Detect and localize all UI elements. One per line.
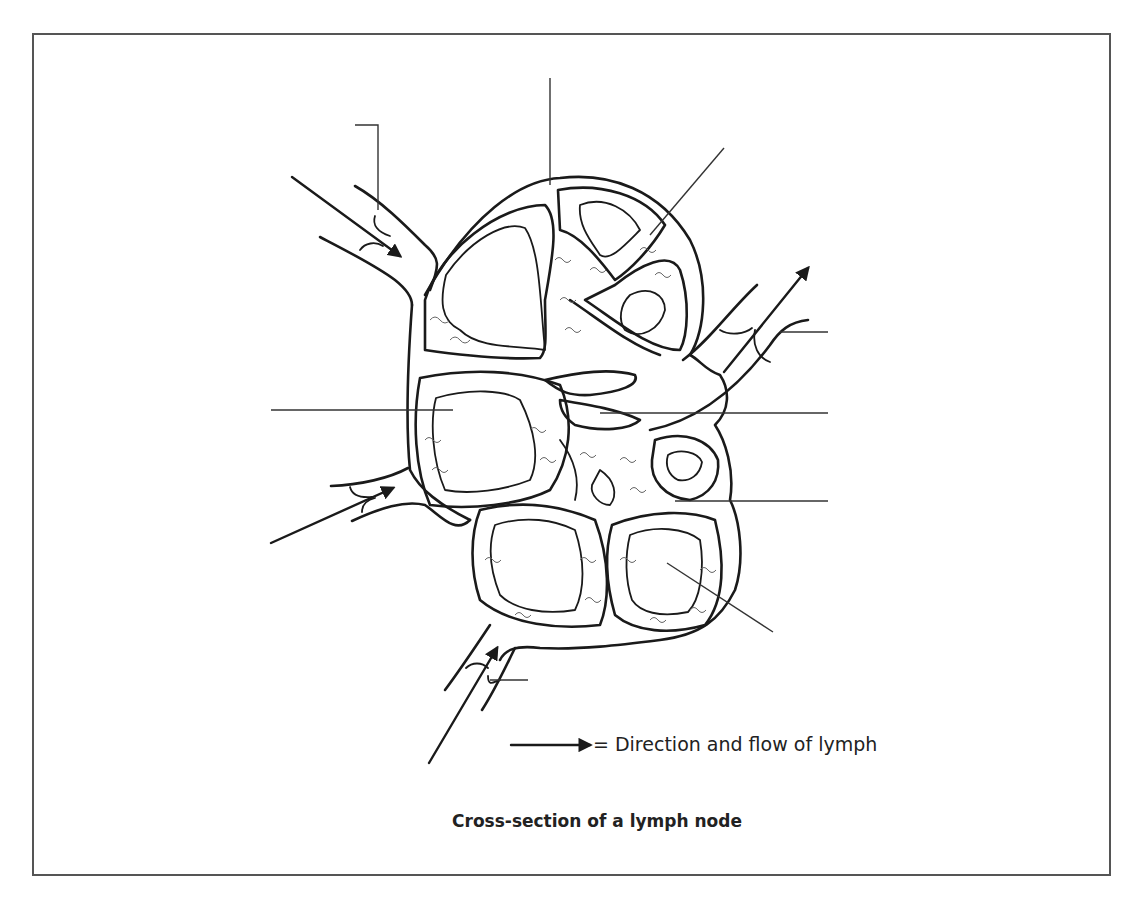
medullary-sinuses [545,300,660,505]
figure-caption-wrap: Cross-section of a lymph node [0,811,1142,831]
leader-trabecula [650,148,724,235]
legend-text: = Direction and flow of lymph [593,733,877,755]
lymph-node-diagram [0,0,1142,916]
leader-afferent-valve-top [355,125,378,210]
figure-caption: Cross-section of a lymph node [452,811,742,831]
lymphoid-nodules [416,188,722,631]
afferent-vessel-top [292,177,437,305]
leader-germinal-center [667,563,773,632]
afferent-vessel-bottom [429,625,515,763]
